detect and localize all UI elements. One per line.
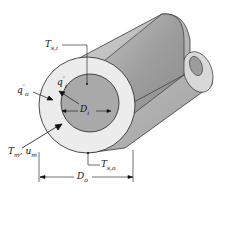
label-tm-um: Tm, um <box>8 147 37 158</box>
label-ts-inner: Ts,i <box>45 40 58 51</box>
inner-tube-face <box>61 74 119 132</box>
label-q-inner: q″i <box>57 76 67 89</box>
ts-outer-leader <box>88 153 100 165</box>
label-q-outer: q″o <box>17 84 29 97</box>
label-ts-outer: Ts,o <box>101 160 116 171</box>
label-d-outer: Do <box>77 172 88 183</box>
label-d-inner: Di <box>80 105 89 116</box>
